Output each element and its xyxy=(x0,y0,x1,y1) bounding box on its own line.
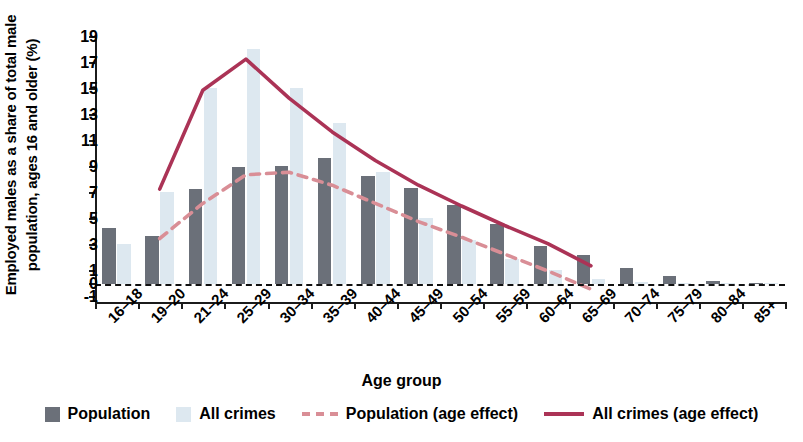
y-tick-label: 17 xyxy=(58,55,98,71)
legend-item: Population xyxy=(45,405,151,423)
y-tick-label: 15 xyxy=(58,81,98,97)
y-axis-title-line1: Employed males as a share of total male xyxy=(0,5,21,305)
legend-solid-line-icon xyxy=(544,412,584,416)
trend-lines xyxy=(95,30,785,315)
legend-dashed-line-icon xyxy=(302,412,338,416)
x-axis-title: Age group xyxy=(0,372,803,390)
y-tick-label: 1 xyxy=(58,263,98,279)
legend-label: Population xyxy=(68,405,151,423)
y-tick-label: 13 xyxy=(58,107,98,123)
line-all-crimes-age-effect xyxy=(160,59,591,266)
legend-label: All crimes xyxy=(199,405,275,423)
chart-legend: PopulationAll crimesPopulation (age effe… xyxy=(0,405,803,423)
y-tick-label: 9 xyxy=(58,159,98,175)
legend-item: All crimes (age effect) xyxy=(544,405,758,423)
legend-label: Population (age effect) xyxy=(346,405,518,423)
y-axis-title-line2: population, ages 16 and older (%) xyxy=(21,5,42,305)
line-population-age-effect xyxy=(160,172,591,289)
legend-label: All crimes (age effect) xyxy=(592,405,758,423)
legend-item: All crimes xyxy=(176,405,275,423)
y-tick-label: 3 xyxy=(58,237,98,253)
zero-reference-line xyxy=(95,284,785,286)
y-tick-label: 19 xyxy=(58,29,98,45)
y-tick-label: 7 xyxy=(58,185,98,201)
legend-swatch-box-icon xyxy=(45,407,60,422)
legend-item: Population (age effect) xyxy=(302,405,518,423)
y-tick-label: 11 xyxy=(58,133,98,149)
legend-swatch-box-icon xyxy=(176,407,191,422)
plot-area: 16–1819–2021–2425–2930–3435–3940–4445–49… xyxy=(95,30,785,302)
x-tick xyxy=(785,302,787,309)
y-axis-title: Employed males as a share of total male … xyxy=(0,5,60,305)
chart-figure: Employed males as a share of total male … xyxy=(0,0,803,442)
y-tick-label: 5 xyxy=(58,211,98,227)
